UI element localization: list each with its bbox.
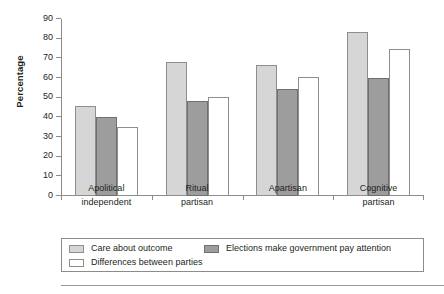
- white-swatch-icon: [69, 259, 84, 267]
- y-axis-tick: 90: [56, 18, 61, 19]
- y-axis-tick-label: 80: [43, 31, 53, 44]
- y-axis-tick: 10: [56, 175, 61, 176]
- legend-item-care-about-outcome: Care about outcome: [69, 243, 173, 254]
- y-axis-tick-label: 20: [43, 149, 53, 162]
- x-axis-category-label: Apoliticalindependent: [82, 182, 132, 209]
- y-axis-tick-label: 90: [43, 12, 53, 25]
- y-axis-tick-label: 50: [43, 90, 53, 103]
- y-axis-tick-label: 70: [43, 51, 53, 64]
- bar: [277, 89, 298, 196]
- x-axis-category-label: Apartisan: [269, 182, 307, 196]
- bar: [298, 77, 319, 196]
- legend-label: Elections make government pay attention: [226, 243, 391, 254]
- y-axis-tick: 60: [56, 77, 61, 78]
- bar: [389, 49, 410, 197]
- mid-gray-swatch-icon: [204, 245, 219, 253]
- y-axis-tick-label: 60: [43, 71, 53, 84]
- y-axis-tick: 80: [56, 38, 61, 39]
- y-axis-tick-label: 30: [43, 130, 53, 143]
- x-axis-tick: [333, 196, 334, 200]
- legend-item-elections-make-government-pay-attention: Elections make government pay attention: [204, 243, 391, 254]
- x-axis-tick: [423, 196, 424, 200]
- y-axis-tick: 30: [56, 136, 61, 137]
- bar: [256, 65, 277, 196]
- x-axis-tick: [152, 196, 153, 200]
- category-label-line: independent: [82, 196, 132, 210]
- light-gray-swatch-icon: [69, 245, 84, 253]
- y-axis-tick-label: 0: [48, 189, 53, 202]
- chart-legend: Care about outcome Elections make govern…: [61, 238, 424, 272]
- legend-label: Care about outcome: [91, 243, 173, 254]
- bar: [166, 62, 187, 196]
- y-axis-tick-label: 10: [43, 169, 53, 182]
- y-axis-title: Percentage: [14, 37, 25, 127]
- x-axis-category-label: Cognitivepartisan: [360, 182, 398, 209]
- category-label-line: Ritual: [181, 182, 213, 196]
- legend-item-differences-between-parties: Differences between parties: [69, 257, 202, 268]
- category-label-line: Cognitive: [360, 182, 398, 196]
- category-label-line: partisan: [360, 196, 398, 210]
- bar: [368, 78, 389, 196]
- plot-area: 0102030405060708090: [61, 19, 424, 196]
- y-axis-tick: 50: [56, 97, 61, 98]
- x-axis-tick: [243, 196, 244, 200]
- bar: [347, 32, 368, 196]
- category-label-line: Apartisan: [269, 182, 307, 196]
- x-axis-category-label: Ritualpartisan: [181, 182, 213, 209]
- category-label-line: partisan: [181, 196, 213, 210]
- y-axis-tick-label: 40: [43, 110, 53, 123]
- footer-divider: [61, 285, 444, 286]
- y-axis-tick: 70: [56, 57, 61, 58]
- legend-label: Differences between parties: [91, 257, 202, 268]
- category-label-line: Apolitical: [82, 182, 132, 196]
- x-axis-tick: [61, 196, 62, 200]
- y-axis-line: [61, 19, 62, 196]
- bar-chart-figure: Percentage 0102030405060708090 Apolitica…: [0, 0, 444, 294]
- y-axis-tick: 20: [56, 156, 61, 157]
- y-axis-tick: 40: [56, 116, 61, 117]
